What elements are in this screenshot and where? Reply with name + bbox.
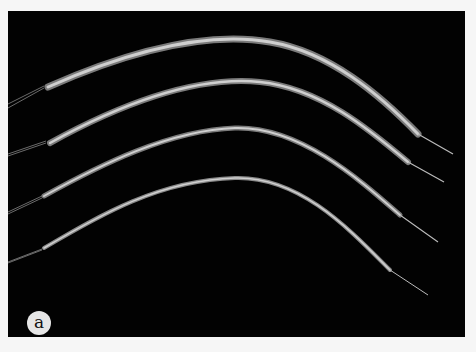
fibers-illustration <box>8 11 465 337</box>
panel-label: a <box>27 311 51 335</box>
fiber-4 <box>8 178 428 295</box>
fiber-1 <box>8 39 453 154</box>
image-panel <box>8 11 465 337</box>
fiber-3 <box>8 128 438 242</box>
